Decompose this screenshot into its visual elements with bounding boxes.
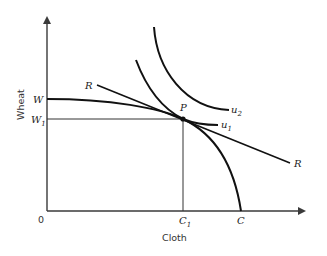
c-tick-label: C: [237, 215, 245, 226]
origin-label: 0: [38, 214, 44, 225]
price-line-label-right: R: [293, 158, 302, 169]
indifference-curve-u2: [154, 27, 229, 110]
u1-label: u1: [221, 119, 232, 133]
x-axis-label: Cloth: [162, 232, 187, 243]
w1-tick-label: W1: [31, 114, 46, 128]
c1-tick-label: C1: [179, 215, 191, 229]
price-line-rr: [97, 85, 290, 163]
ppf-diagram: P R R u2 u1 W W1 C1 C 0 Cloth Wheat: [0, 0, 327, 256]
point-p-label: P: [179, 102, 187, 113]
w-tick-label: W: [33, 94, 44, 105]
equilibrium-point-p: [180, 116, 185, 121]
price-line-label-left: R: [84, 80, 93, 91]
indifference-curve-u1: [136, 60, 218, 125]
y-axis-label: Wheat: [15, 89, 26, 120]
u2-label: u2: [231, 104, 242, 118]
production-possibility-curve: [47, 99, 241, 211]
